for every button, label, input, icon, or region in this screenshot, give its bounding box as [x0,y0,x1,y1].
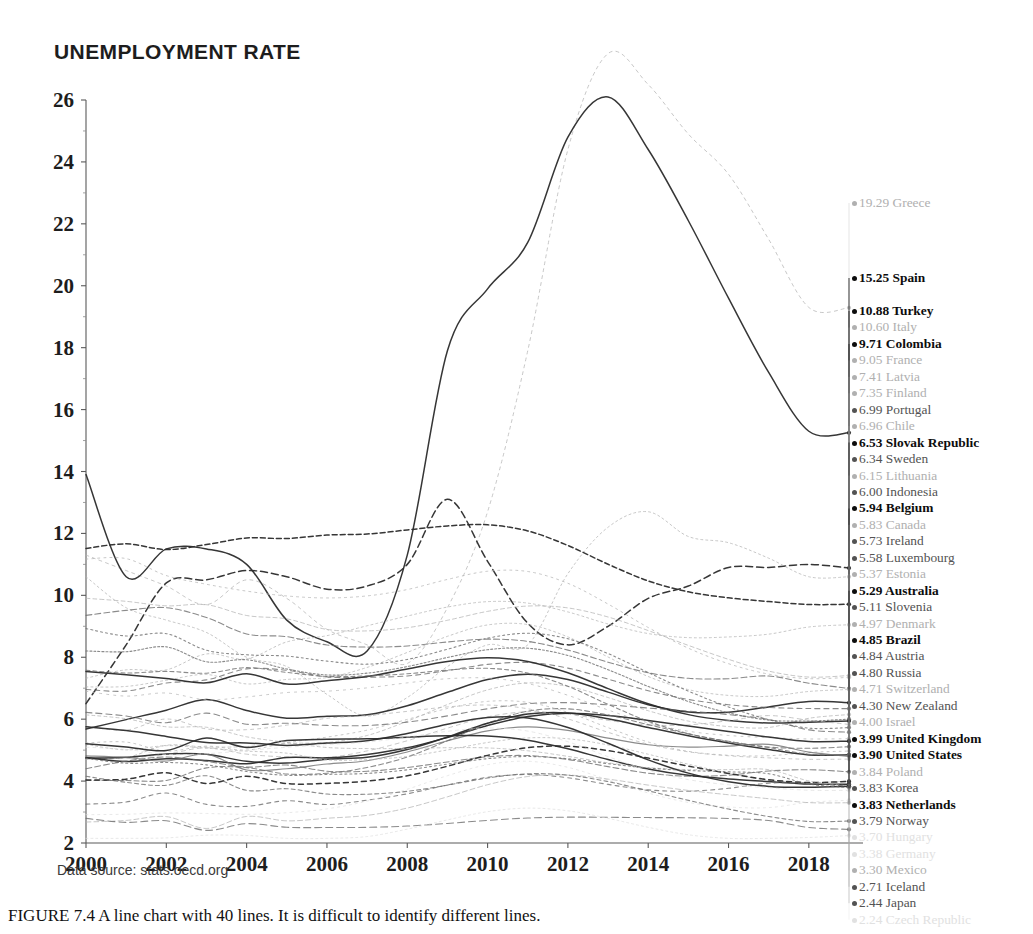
y-axis-tick-label: 10 [53,583,74,607]
x-axis-tick-label: 2006 [306,852,348,876]
series-label-united-kingdom: 3.99 United Kingdom [852,732,981,745]
series-value: 3.70 [859,829,882,844]
series-name: Korea [886,780,919,795]
series-label-netherlands: 3.83 Netherlands [852,798,956,811]
data-source-note: Data source: stats.oecd.org [57,862,228,878]
series-value: 3.99 [859,731,882,746]
series-label-poland: 3.84 Poland [852,765,923,778]
chart-figure: UNEMPLOYMENT RATE 2624222018161412108642… [0,0,1033,934]
series-label-dot [852,490,857,495]
series-label-united-states: 3.90 United States [852,748,962,761]
series-name: Ireland [886,533,924,548]
series-label-dot [852,852,857,857]
series-label-dot [852,539,857,544]
series-line [86,658,849,723]
series-name: Denmark [886,616,936,631]
series-value: 9.05 [859,352,882,367]
series-value: 2.24 [859,912,882,927]
series-label-france: 9.05 France [852,353,922,366]
series-name: Italy [893,319,918,334]
series-name: Switzerland [886,681,950,696]
x-axis-tick-label: 2008 [386,852,428,876]
series-label-dot [852,835,857,840]
series-label-finland: 7.35 Finland [852,386,927,399]
series-value: 6.53 [859,435,882,450]
series-label-germany: 3.38 Germany [852,847,936,860]
series-label-colombia: 9.71 Colombia [852,337,942,350]
series-name: Indonesia [886,484,938,499]
series-line [86,525,849,605]
series-label-dot [852,819,857,824]
series-label-italy: 10.60 Italy [852,320,917,333]
series-label-dot [852,918,857,923]
series-label-iceland: 2.71 Iceland [852,880,925,893]
series-label-dot [852,885,857,890]
series-name: Netherlands [886,797,956,812]
series-name: Brazil [886,632,921,647]
y-axis-tick-label: 12 [53,521,74,545]
series-value: 10.88 [859,303,889,318]
series-name: Slovak Republic [886,435,979,450]
series-value: 4.30 [859,698,882,713]
series-value: 3.84 [859,764,882,779]
series-label-dot [852,572,857,577]
series-label-dot [852,622,857,627]
series-name: Latvia [886,369,920,384]
series-line [86,808,849,839]
series-label-dot [852,589,857,594]
series-name: Belgium [886,500,934,515]
y-axis-tick-label: 26 [53,88,74,112]
series-label-dot [852,424,857,429]
series-name: Portugal [886,402,931,417]
series-label-dot [852,474,857,479]
series-name: Japan [886,895,917,910]
series-value: 4.00 [859,714,882,729]
series-label-austria: 4.84 Austria [852,649,924,662]
series-label-dot [852,654,857,659]
series-name: Luxembourg [886,550,955,565]
series-label-dot [852,391,857,396]
series-value: 7.41 [859,369,882,384]
series-line [86,817,849,830]
series-label-dot [852,786,857,791]
series-value: 3.83 [859,780,882,795]
series-name: Czech Republic [886,912,971,927]
series-label-slovenia: 5.11 Slovenia [852,600,932,613]
series-label-japan: 2.44 Japan [852,896,916,909]
series-name: Turkey [892,303,933,318]
series-label-canada: 5.83 Canada [852,518,926,531]
series-label-indonesia: 6.00 Indonesia [852,485,938,498]
series-label-brazil: 4.85 Brazil [852,633,921,646]
series-name: Poland [886,764,923,779]
series-value: 4.71 [859,681,882,696]
series-label-korea: 3.83 Korea [852,781,919,794]
series-name: Russia [886,665,922,680]
figure-caption: FIGURE 7.4 A line chart with 40 lines. I… [8,906,540,926]
series-label-turkey: 10.88 Turkey [852,304,933,317]
series-label-chile: 6.96 Chile [852,419,915,432]
series-value: 4.85 [859,632,882,647]
series-label-dot [852,457,857,462]
series-label-dot [852,901,857,906]
series-name: Chile [886,418,915,433]
series-value: 3.83 [859,797,882,812]
series-label-dot [852,605,857,610]
series-name: France [886,352,922,367]
series-name: Colombia [886,336,942,351]
x-axis-tick-label: 2012 [547,852,589,876]
series-value: 15.25 [859,270,889,285]
series-value: 3.90 [859,747,882,762]
series-value: 5.73 [859,533,882,548]
series-label-dot [852,737,857,742]
series-name: Canada [886,517,926,532]
series-label-spain: 15.25 Spain [852,271,925,284]
series-value: 6.15 [859,468,882,483]
series-value: 4.80 [859,665,882,680]
y-axis-tick-label: 20 [53,274,74,298]
series-label-dot [852,358,857,363]
series-label-lithuania: 6.15 Lithuania [852,469,937,482]
series-name: Israel [886,714,916,729]
series-label-israel: 4.00 Israel [852,715,916,728]
series-line [86,607,849,688]
series-label-dot [852,770,857,775]
